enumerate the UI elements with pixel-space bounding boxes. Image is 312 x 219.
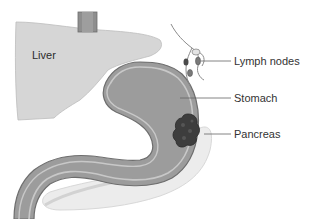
label-stomach: Stomach [234,93,277,104]
anatomy-illustration [0,0,312,219]
label-liver: Liver [32,50,56,61]
stomach-anatomy-diagram: Liver Lymph nodes Stomach Pancreas [0,0,312,219]
esophagus-shape [78,12,97,32]
label-pancreas: Pancreas [234,129,280,140]
label-lymph-nodes: Lymph nodes [234,56,300,67]
